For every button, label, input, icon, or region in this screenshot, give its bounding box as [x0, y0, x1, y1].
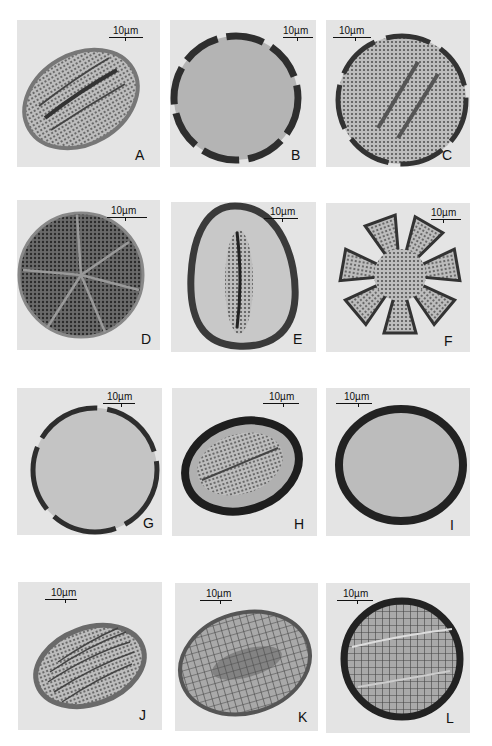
scale-bar: 10µm — [270, 207, 295, 217]
panel-label: D — [141, 332, 151, 346]
panel-label: K — [298, 710, 307, 724]
scale-label: 10µm — [343, 589, 368, 599]
scale-label: 10µm — [206, 589, 231, 599]
panel-label: A — [135, 148, 144, 162]
pollen-grain-f — [326, 203, 470, 352]
panel-label: I — [450, 518, 454, 532]
panel-label: C — [442, 148, 452, 162]
panel-j: 10µm J — [18, 582, 162, 730]
panel-label: G — [143, 516, 154, 530]
scale-bar: 10µm — [51, 588, 76, 598]
panel-label: E — [293, 332, 302, 346]
scale-bar: 10µm — [339, 26, 364, 36]
panel-g: 10µm G — [17, 388, 162, 535]
scale-label: 10µm — [51, 588, 76, 598]
panel-h: 10µm H — [172, 388, 317, 536]
scale-label: 10µm — [107, 392, 132, 402]
scale-bar: 10µm — [343, 589, 368, 599]
scale-label: 10µm — [283, 26, 308, 36]
scale-label: 10µm — [431, 208, 456, 218]
scale-label: 10µm — [269, 392, 294, 402]
scale-bar: 10µm — [107, 392, 132, 402]
panel-label: B — [291, 148, 300, 162]
scale-bar: 10µm — [113, 26, 138, 36]
scale-label: 10µm — [344, 392, 369, 402]
scale-label: 10µm — [113, 26, 138, 36]
pollen-grain-k — [175, 583, 318, 731]
pollen-grain-c — [326, 20, 470, 167]
panel-l: 10µm L — [326, 583, 470, 733]
panel-e: 10µm E — [171, 202, 316, 352]
scale-bar: 10µm — [206, 589, 231, 599]
panel-label: H — [294, 517, 304, 531]
scale-bar: 10µm — [269, 392, 294, 402]
panel-b: 10µm B — [170, 20, 316, 167]
pollen-grain-g — [17, 388, 162, 535]
panel-c: 10µm C — [326, 20, 470, 167]
pollen-grain-h — [172, 388, 317, 536]
scale-label: 10µm — [270, 207, 295, 217]
pollen-grain-d — [17, 200, 160, 350]
scale-bar: 10µm — [111, 206, 136, 216]
panel-i: 10µm I — [326, 388, 470, 536]
scale-bar: 10µm — [283, 26, 308, 36]
pollen-grain-a — [17, 20, 160, 167]
scale-label: 10µm — [111, 206, 136, 216]
scale-bar: 10µm — [431, 208, 456, 218]
panel-k: 10µm K — [175, 583, 318, 731]
scale-label: 10µm — [339, 26, 364, 36]
panel-d: 10µm D — [17, 200, 160, 350]
pollen-grain-i — [326, 388, 470, 536]
panel-a: 10µm A — [17, 20, 160, 167]
panel-label: L — [446, 711, 454, 725]
pollen-grain-e — [171, 202, 316, 352]
pollen-grain-b — [170, 20, 316, 167]
panel-label: J — [139, 708, 146, 722]
panel-label: F — [444, 334, 453, 348]
scale-bar: 10µm — [344, 392, 369, 402]
panel-f: 10µm F — [326, 203, 470, 352]
